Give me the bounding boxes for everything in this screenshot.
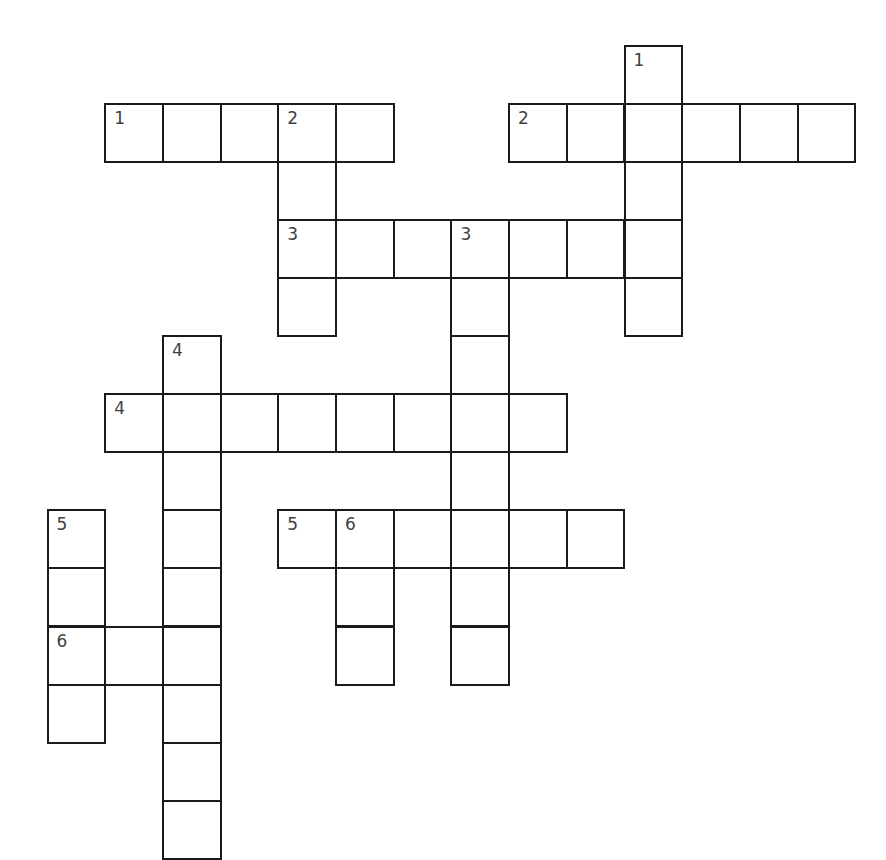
crossword-cell[interactable] <box>162 742 222 802</box>
crossword-cell[interactable] <box>162 103 222 163</box>
crossword-cell[interactable] <box>277 161 337 221</box>
crossword-cell[interactable] <box>450 451 510 511</box>
crossword-cell[interactable] <box>566 103 626 163</box>
crossword-cell[interactable] <box>162 626 222 686</box>
crossword-cell[interactable]: 1 <box>104 103 164 163</box>
crossword-cell[interactable]: 6 <box>47 626 107 686</box>
crossword-cell[interactable] <box>566 509 626 569</box>
clue-number-down-4: 4 <box>172 342 183 359</box>
clue-number-across-4: 4 <box>114 400 125 417</box>
crossword-cell[interactable] <box>393 219 453 279</box>
crossword-cell[interactable] <box>450 393 510 453</box>
clue-number-across-1: 1 <box>114 110 125 127</box>
clue-number-down-2: 2 <box>287 110 298 127</box>
crossword-cell[interactable] <box>450 626 510 686</box>
crossword-cell[interactable]: 3 <box>450 219 510 279</box>
crossword-cell[interactable]: 4 <box>162 335 222 395</box>
crossword-cell[interactable]: 6 <box>335 509 395 569</box>
clue-number-across-2: 2 <box>518 110 529 127</box>
clue-number-across-6: 6 <box>57 633 68 650</box>
clue-number-across-3: 3 <box>287 226 298 243</box>
crossword-cell[interactable] <box>681 103 741 163</box>
crossword-cell[interactable] <box>450 567 510 627</box>
crossword-cell[interactable] <box>220 103 280 163</box>
crossword-cell[interactable] <box>162 800 222 860</box>
crossword-cell[interactable] <box>162 684 222 744</box>
crossword-cell[interactable] <box>335 567 395 627</box>
crossword-cell[interactable] <box>566 219 626 279</box>
crossword-cell[interactable] <box>162 393 222 453</box>
crossword-cell[interactable] <box>277 277 337 337</box>
crossword-cell[interactable]: 1 <box>624 45 684 105</box>
crossword-cell[interactable] <box>450 509 510 569</box>
crossword-cell[interactable] <box>624 219 684 279</box>
crossword-cell[interactable] <box>162 451 222 511</box>
crossword-cell[interactable] <box>47 567 107 627</box>
clue-number-down-1: 1 <box>634 52 645 69</box>
crossword-cell[interactable] <box>450 335 510 395</box>
clue-number-across-5: 5 <box>287 516 298 533</box>
crossword-cell[interactable]: 4 <box>104 393 164 453</box>
crossword-cell[interactable] <box>220 393 280 453</box>
crossword-cell[interactable]: 2 <box>277 103 337 163</box>
crossword-cell[interactable] <box>47 684 107 744</box>
crossword-cell[interactable] <box>335 103 395 163</box>
crossword-cell[interactable] <box>508 509 568 569</box>
crossword-cell[interactable] <box>450 277 510 337</box>
clue-number-down-6: 6 <box>345 516 356 533</box>
crossword-cell[interactable] <box>335 393 395 453</box>
crossword-cell[interactable] <box>335 626 395 686</box>
clue-number-down-5: 5 <box>57 516 68 533</box>
crossword-cell[interactable]: 3 <box>277 219 337 279</box>
crossword-cell[interactable] <box>739 103 799 163</box>
crossword-cell[interactable]: 5 <box>47 509 107 569</box>
crossword-cell[interactable] <box>104 626 164 686</box>
clue-number-down-3: 3 <box>460 226 471 243</box>
crossword-cell[interactable] <box>797 103 857 163</box>
crossword-cell[interactable] <box>624 103 684 163</box>
crossword-cell[interactable] <box>624 277 684 337</box>
crossword-cell[interactable] <box>508 219 568 279</box>
crossword-cell[interactable] <box>624 161 684 221</box>
crossword-cell[interactable] <box>393 509 453 569</box>
crossword-cell[interactable] <box>162 567 222 627</box>
crossword-cell[interactable] <box>508 393 568 453</box>
crossword-cell[interactable]: 5 <box>277 509 337 569</box>
crossword-cell[interactable] <box>162 509 222 569</box>
crossword-cell[interactable]: 2 <box>508 103 568 163</box>
crossword-cell[interactable] <box>277 393 337 453</box>
crossword-cell[interactable] <box>335 219 395 279</box>
crossword-cell[interactable] <box>393 393 453 453</box>
